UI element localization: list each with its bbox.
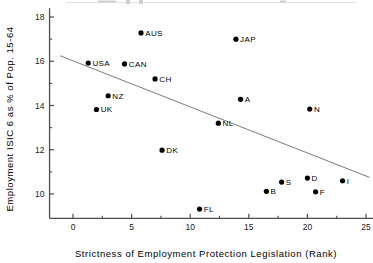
data-point-label: FL (204, 205, 214, 214)
data-point-marker (233, 37, 238, 42)
y-axis-title: Employment ISIC 6 as % of Pop. 15-64 (4, 26, 15, 211)
data-point-marker (216, 121, 221, 126)
data-point: N (307, 105, 320, 114)
data-point: S (279, 178, 292, 187)
y-tick-label: 18 (35, 12, 45, 22)
data-point: NZ (106, 92, 124, 101)
data-point-marker (152, 76, 157, 81)
scatter-plot-figure: 05101520251012141618 AUSJAPUSACANCHNZUKA… (0, 0, 373, 263)
data-point: NL (216, 119, 234, 128)
data-point-marker (307, 106, 312, 111)
x-tick-label: 20 (303, 222, 313, 232)
data-point-marker (313, 189, 318, 194)
data-point: JAP (233, 35, 256, 44)
data-point-label: N (314, 105, 320, 114)
data-point-label: NZ (112, 92, 123, 101)
data-point-label: UK (101, 105, 113, 114)
data-point-marker (94, 107, 99, 112)
data-point: B (264, 187, 277, 196)
data-point: A (238, 95, 251, 104)
data-point-marker (159, 148, 164, 153)
data-point-label: D (312, 174, 318, 183)
data-point-label: B (271, 187, 277, 196)
x-axis-title: Strictness of Employment Protection Legi… (75, 248, 337, 259)
data-point: D (305, 174, 318, 183)
y-tick-label: 14 (35, 101, 45, 111)
truncated-title-strip (66, 0, 356, 4)
data-point: UK (94, 105, 113, 114)
data-point: F (313, 188, 325, 197)
data-point-label: USA (92, 59, 110, 68)
data-point-label: AUS (145, 29, 163, 38)
y-tick-label: 16 (35, 56, 45, 66)
data-point-label: S (286, 178, 292, 187)
plot-canvas: 05101520251012141618 AUSJAPUSACANCHNZUKA… (0, 0, 373, 263)
data-point: FL (197, 205, 214, 214)
data-point-marker (340, 178, 345, 183)
data-point-marker (86, 60, 91, 65)
data-point: CH (152, 75, 171, 84)
data-point: USA (86, 59, 111, 68)
data-point-marker (197, 206, 202, 211)
x-tick-label: 15 (244, 222, 254, 232)
data-point-marker (106, 93, 111, 98)
x-tick-label: 25 (361, 222, 371, 232)
data-point-label: CH (159, 75, 171, 84)
data-point-label: I (347, 177, 350, 186)
data-point: DK (159, 146, 178, 155)
data-point-label: JAP (240, 35, 256, 44)
y-tick-label: 12 (35, 145, 45, 155)
x-tick-label: 10 (185, 222, 195, 232)
regression-trend-line (60, 56, 369, 178)
data-point: I (340, 177, 349, 186)
data-point-label: F (320, 188, 325, 197)
data-point-marker (279, 179, 284, 184)
data-point: CAN (122, 60, 147, 69)
data-point-label: DK (166, 146, 178, 155)
tick-marks-group (50, 17, 366, 218)
data-point-label: A (245, 95, 251, 104)
y-tick-label: 10 (35, 189, 45, 199)
data-point-marker (305, 175, 310, 180)
data-points-group: AUSJAPUSACANCHNZUKANNLDKSDIBFFL (86, 29, 350, 214)
x-tick-label: 5 (129, 222, 134, 232)
data-point-marker (138, 30, 143, 35)
data-point: AUS (138, 29, 162, 38)
data-point-label: CAN (129, 60, 147, 69)
data-point-marker (122, 61, 127, 66)
data-point-marker (238, 97, 243, 102)
data-point-label: NL (223, 119, 234, 128)
x-tick-label: 0 (71, 222, 76, 232)
data-point-marker (264, 189, 269, 194)
tick-labels-group: 05101520251012141618 (35, 12, 371, 232)
trend-line-group (60, 56, 369, 178)
